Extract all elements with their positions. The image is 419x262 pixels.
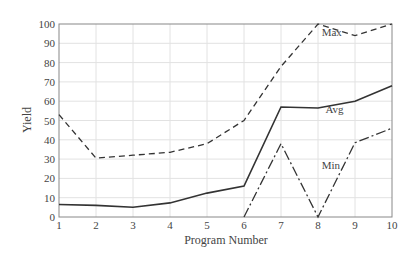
y-tick-label: 10 — [44, 192, 56, 204]
yield-line-chart: 0102030405060708090100 12345678910 MaxAv… — [0, 0, 419, 262]
series-line-max — [59, 24, 392, 158]
y-axis-label: Yield — [20, 107, 34, 133]
x-tick-label: 9 — [352, 219, 358, 231]
y-axis-ticks: 0102030405060708090100 — [39, 18, 56, 223]
y-tick-label: 20 — [44, 172, 56, 184]
series-label-avg: Avg — [325, 103, 344, 115]
x-tick-label: 2 — [93, 219, 99, 231]
series-labels: MaxAvgMin — [322, 26, 344, 171]
series-label-max: Max — [322, 26, 343, 38]
y-tick-label: 40 — [44, 134, 56, 146]
x-tick-label: 4 — [167, 219, 173, 231]
y-tick-label: 100 — [39, 18, 56, 30]
y-tick-label: 70 — [44, 76, 56, 88]
x-tick-label: 7 — [278, 219, 284, 231]
y-tick-label: 30 — [44, 153, 56, 165]
x-tick-label: 6 — [241, 219, 247, 231]
x-tick-label: 8 — [315, 219, 321, 231]
grid-lines — [59, 24, 392, 217]
y-tick-label: 80 — [44, 57, 56, 69]
series-label-min: Min — [322, 159, 341, 171]
y-tick-label: 0 — [50, 211, 56, 223]
x-tick-label: 10 — [387, 219, 399, 231]
y-tick-label: 90 — [44, 37, 56, 49]
y-tick-label: 60 — [44, 95, 56, 107]
x-tick-label: 5 — [204, 219, 210, 231]
x-axis-label: Program Number — [184, 233, 268, 247]
x-tick-label: 1 — [56, 219, 62, 231]
x-axis-ticks: 12345678910 — [56, 219, 398, 231]
x-tick-label: 3 — [130, 219, 136, 231]
y-tick-label: 50 — [44, 115, 56, 127]
